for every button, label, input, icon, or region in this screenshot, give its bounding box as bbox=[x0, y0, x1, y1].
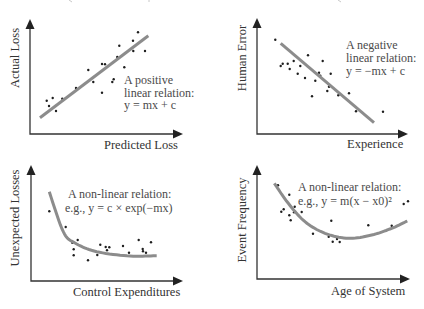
data-point bbox=[145, 252, 147, 254]
data-point bbox=[128, 252, 130, 254]
data-point bbox=[290, 219, 292, 221]
data-point bbox=[282, 63, 284, 65]
x-axis-label: Control Expenditures bbox=[73, 285, 180, 299]
data-point bbox=[137, 31, 139, 33]
annotation-equation: e.g., y = m(x − x0)² bbox=[298, 194, 392, 208]
data-point bbox=[301, 211, 303, 213]
data-point bbox=[322, 60, 324, 62]
data-point bbox=[105, 246, 107, 248]
data-point bbox=[142, 248, 144, 250]
annotation-line-1: A non-linear relation: bbox=[298, 180, 401, 194]
data-point bbox=[403, 203, 405, 205]
data-point bbox=[304, 77, 306, 79]
data-point bbox=[348, 92, 350, 94]
y-axis-arrow-icon bbox=[253, 165, 262, 175]
x-axis-label: Age of System bbox=[331, 284, 406, 298]
data-point bbox=[48, 105, 50, 107]
annotation-equation: y = mx + c bbox=[124, 98, 176, 112]
data-point bbox=[96, 254, 98, 256]
annotation-line-1: A negative bbox=[346, 38, 398, 52]
data-point bbox=[280, 211, 282, 213]
data-point bbox=[48, 210, 50, 212]
data-point bbox=[111, 81, 113, 83]
data-point bbox=[314, 80, 316, 82]
data-point bbox=[339, 241, 341, 243]
y-axis-label: Event Frequency bbox=[235, 177, 249, 263]
data-point bbox=[283, 208, 285, 210]
data-point bbox=[293, 60, 295, 62]
data-point bbox=[138, 239, 140, 241]
data-point bbox=[312, 233, 314, 235]
data-point bbox=[330, 220, 332, 222]
data-point bbox=[280, 65, 282, 67]
data-point bbox=[123, 66, 125, 68]
cropped-heading-fragments bbox=[69, 0, 341, 2]
data-point bbox=[65, 226, 67, 228]
data-point bbox=[142, 250, 144, 252]
y-axis-label: Actual Loss bbox=[8, 28, 22, 88]
data-point bbox=[122, 245, 124, 247]
data-point bbox=[367, 224, 369, 226]
data-point bbox=[101, 63, 103, 65]
data-point bbox=[55, 110, 57, 112]
y-axis-arrow-icon bbox=[26, 19, 35, 29]
data-point bbox=[106, 249, 108, 251]
data-point bbox=[104, 63, 106, 65]
data-point bbox=[73, 254, 75, 256]
data-point bbox=[299, 65, 301, 67]
data-point bbox=[99, 244, 101, 246]
data-point bbox=[287, 63, 289, 65]
data-point bbox=[289, 68, 291, 70]
four-panel-relationship-diagram: Predicted Loss Actual Loss A positive li… bbox=[0, 0, 424, 309]
data-point bbox=[73, 248, 75, 250]
data-point bbox=[46, 100, 48, 102]
data-point bbox=[326, 90, 328, 92]
annotation-line-1: A positive bbox=[124, 73, 173, 87]
data-point bbox=[330, 73, 332, 75]
data-point bbox=[297, 73, 299, 75]
data-point bbox=[87, 69, 89, 71]
data-point bbox=[87, 259, 89, 261]
y-axis-arrow-icon bbox=[27, 165, 36, 175]
x-axis-arrow-icon bbox=[400, 275, 410, 284]
data-point bbox=[144, 50, 146, 52]
panel-exponential-decay: Control Expenditures Unexpected Losses A… bbox=[8, 165, 183, 299]
panel-positive-linear: Predicted Loss Actual Loss A positive li… bbox=[8, 19, 194, 152]
annotation-line-1: A non-linear relation: bbox=[68, 187, 171, 201]
panel-quadratic: Age of System Event Frequency A non-line… bbox=[235, 165, 410, 298]
data-point bbox=[113, 78, 115, 80]
data-point bbox=[108, 246, 110, 248]
data-point bbox=[382, 111, 384, 113]
y-axis-label: Human Error bbox=[235, 24, 249, 91]
y-axis-label: Unexpected Losses bbox=[8, 169, 22, 266]
data-point bbox=[132, 40, 134, 42]
annotation-equation: e.g., y = c × exp(−mx) bbox=[65, 201, 173, 215]
panel-negative-linear: Experience Human Error A negative linear… bbox=[235, 18, 416, 151]
data-point bbox=[407, 200, 409, 202]
data-point bbox=[355, 110, 357, 112]
data-point bbox=[294, 206, 296, 208]
data-point bbox=[132, 50, 134, 52]
data-point bbox=[288, 194, 290, 196]
x-axis-label: Experience bbox=[347, 137, 404, 151]
data-point bbox=[92, 81, 94, 83]
y-axis-arrow-icon bbox=[253, 18, 262, 28]
data-point bbox=[52, 97, 54, 99]
data-point bbox=[274, 39, 276, 41]
annotation-line-2: linear relation: bbox=[346, 51, 416, 65]
data-point bbox=[288, 214, 290, 216]
data-point bbox=[307, 54, 309, 56]
data-point bbox=[332, 241, 334, 243]
data-point bbox=[77, 239, 79, 241]
data-point bbox=[118, 45, 120, 47]
data-point bbox=[101, 92, 103, 94]
annotation-equation: y = −mx + c bbox=[346, 64, 405, 78]
x-axis-label: Predicted Loss bbox=[104, 138, 178, 152]
data-point bbox=[150, 241, 152, 243]
data-point bbox=[311, 95, 313, 97]
